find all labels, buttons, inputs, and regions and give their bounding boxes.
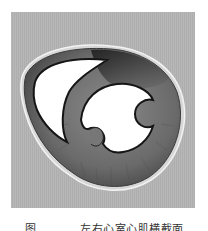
heart-cross-section-illustration bbox=[11, 12, 195, 208]
figure-number: 图 bbox=[25, 223, 37, 231]
caption-text: 左右心室心肌横截面 bbox=[80, 223, 184, 231]
figure-caption: 图 左右心室心肌横截面 bbox=[0, 220, 208, 231]
papillary-muscle bbox=[89, 128, 103, 146]
figure-panel bbox=[11, 12, 195, 208]
